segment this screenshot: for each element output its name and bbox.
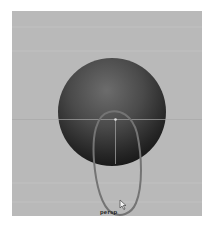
scene-canvas[interactable] bbox=[12, 11, 202, 216]
pivot-icon bbox=[114, 118, 117, 121]
arrow-cursor-icon bbox=[120, 200, 126, 210]
camera-label: persp bbox=[100, 209, 117, 216]
persp-viewport[interactable]: persp bbox=[12, 11, 202, 216]
